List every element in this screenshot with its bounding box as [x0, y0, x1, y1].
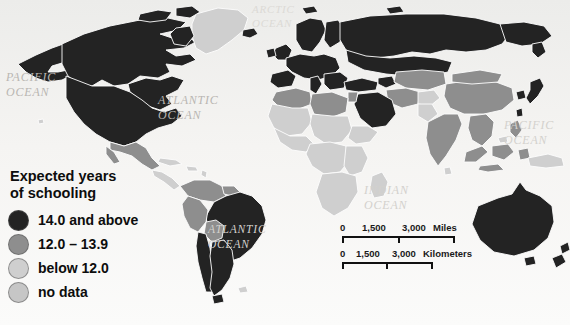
legend-label-below-12: below 12.0: [38, 260, 109, 276]
region-china: [444, 80, 514, 114]
legend-title: Expected years of schooling: [10, 168, 180, 202]
scale-km-rule: [340, 262, 480, 270]
scale-miles-tickmark-2: [453, 236, 455, 243]
scale-miles-tickmark-1: [398, 236, 400, 243]
region-patagonia-tip: [212, 294, 224, 304]
region-taiwan: [516, 108, 523, 117]
scale-miles-rule: [340, 236, 480, 244]
scale-km-tickmark-0: [342, 262, 344, 269]
legend-label-14-and-above: 14.0 and above: [38, 212, 138, 228]
scale-km-tick-2: 3,000: [392, 248, 416, 259]
region-novaya-zemlya: [386, 6, 404, 14]
region-ireland: [266, 48, 276, 58]
scale-miles-tickmark-0: [342, 236, 344, 243]
legend-item-3: no data: [8, 280, 180, 304]
region-sri-lanka: [444, 167, 452, 175]
scale-km-tick-1: 1,500: [356, 248, 380, 259]
scale-miles-tick-1: 1,500: [362, 222, 386, 233]
legend-swatch-14-and-above: [8, 210, 29, 231]
scale-km-labels: 0 1,500 3,000 Kilometers: [340, 248, 480, 261]
legend-swatch-below-12: [8, 258, 29, 279]
legend-item-0: 14.0 and above: [8, 208, 180, 232]
scale-km-tick-0: 0: [340, 248, 345, 259]
scale-miles-labels: 0 1,500 3,000 Miles: [340, 222, 480, 235]
scale-miles-tick-2: 3,000: [402, 222, 426, 233]
region-hispaniola: [186, 166, 198, 171]
map-scale-bar: 0 1,500 3,000 Miles 0 1,500 3,000 Kilome…: [340, 222, 480, 270]
region-tasmania: [524, 256, 536, 266]
region-hawaii: [38, 119, 44, 124]
legend-item-1: 12.0 – 13.9: [8, 232, 180, 256]
legend-swatch-12-to-13-9: [8, 234, 29, 255]
scale-miles-tick-0: 0: [340, 222, 345, 233]
scale-km-unit: Kilometers: [423, 248, 472, 259]
scale-km-tickmark-1: [386, 262, 388, 269]
legend-item-2: below 12.0: [8, 256, 180, 280]
scale-km-tickmark-2: [431, 262, 433, 269]
legend-label-12-to-13-9: 12.0 – 13.9: [38, 236, 108, 252]
legend-label-no-data: no data: [38, 284, 88, 300]
world-map-figure: ARCTIC OCEAN PACIFIC OCEAN ATLANTIC OCEA…: [0, 0, 570, 325]
legend-swatch-no-data: [8, 282, 29, 303]
region-levant: [348, 92, 358, 102]
map-legend: Expected years of schooling 14.0 and abo…: [8, 168, 180, 304]
region-korea: [516, 90, 526, 100]
scale-miles-unit: Miles: [433, 222, 457, 233]
